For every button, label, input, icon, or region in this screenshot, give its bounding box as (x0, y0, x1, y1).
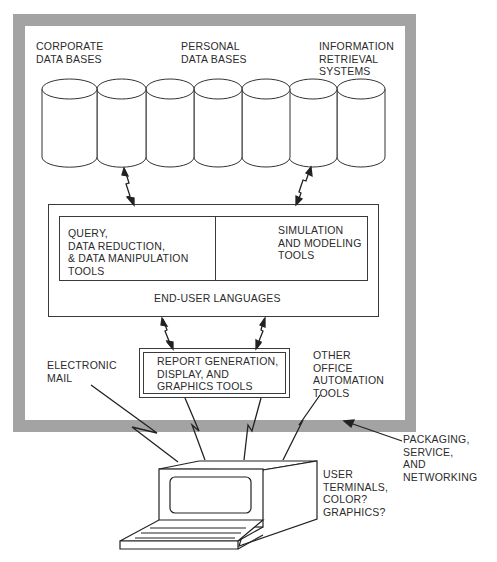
bidirectional-arrow-icon (122, 168, 134, 205)
electronic-mail-link (91, 385, 178, 462)
report-link-left (185, 398, 205, 460)
bidirectional-arrow-icon (161, 318, 173, 349)
office-automation-link (283, 395, 320, 460)
report-link-right (244, 398, 261, 460)
connectors-layer (0, 0, 497, 562)
bidirectional-arrow-icon (256, 318, 265, 349)
bidirectional-arrow-icon (296, 167, 312, 205)
user-terminal-icon (120, 461, 317, 549)
packaging-pointer (350, 423, 402, 441)
